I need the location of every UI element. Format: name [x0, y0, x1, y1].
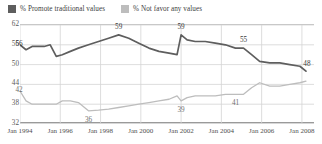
x-axis-tick-label: Jan 2000	[128, 126, 153, 136]
x-axis: Jan 1994Jan 1996Jan 1998Jan 2000Jan 2002…	[20, 126, 314, 140]
data-point-label: 39	[178, 106, 185, 114]
x-axis-tick-label: Jan 1998	[88, 126, 113, 136]
legend-label: % Promote traditional values	[20, 5, 105, 13]
data-point-label: 36	[85, 116, 92, 124]
y-axis-tick-label: 62	[1, 20, 19, 28]
data-point-label: 48	[303, 60, 310, 68]
square-swatch-icon	[8, 5, 16, 13]
x-axis-tick-label: Jan 2008	[289, 126, 314, 136]
x-axis-tick-label: Jan 1996	[48, 126, 73, 136]
y-axis-tick-label: 50	[1, 60, 19, 68]
x-axis-tick-label: Jan 2002	[169, 126, 194, 136]
data-point-label: 41	[232, 99, 239, 107]
data-point-label: 56	[15, 40, 22, 48]
y-axis-tick-label: 38	[1, 99, 19, 107]
series-line	[20, 35, 306, 71]
line-chart: % Promote traditional values % Not favor…	[0, 0, 322, 144]
legend-label: % Not favor any values	[133, 5, 202, 13]
data-point-label: 55	[240, 36, 247, 44]
x-axis-tick-label: Jan 2004	[209, 126, 234, 136]
legend-item-promote-traditional-values[interactable]: % Promote traditional values	[8, 5, 105, 13]
chart-legend: % Promote traditional values % Not favor…	[8, 3, 218, 15]
series-line	[20, 81, 306, 111]
plot-area: 565959554842363941	[20, 24, 314, 123]
data-point-label: 42	[15, 86, 22, 94]
legend-item-not-favor-any-values[interactable]: % Not favor any values	[121, 5, 202, 13]
data-point-label: 59	[178, 23, 185, 31]
x-axis-tick-label: Jan 1994	[7, 126, 32, 136]
x-axis-tick-label: Jan 2006	[249, 126, 274, 136]
square-swatch-icon	[121, 5, 129, 13]
data-point-label: 59	[115, 23, 122, 31]
series-lines	[20, 25, 314, 124]
